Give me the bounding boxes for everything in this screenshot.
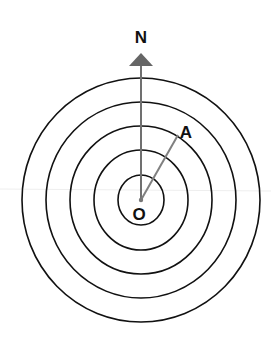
north-label: N bbox=[135, 28, 147, 47]
north-arrow-icon bbox=[129, 53, 153, 66]
concentric-circles-diagram: N A O bbox=[0, 0, 271, 339]
origin-dot bbox=[139, 198, 143, 202]
faint-guide-line bbox=[0, 189, 271, 191]
origin-label: O bbox=[132, 205, 145, 224]
point-a-label: A bbox=[180, 123, 192, 142]
